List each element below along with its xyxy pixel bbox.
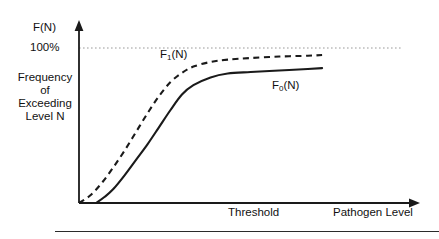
y-axis-description-line-3: Exceeding bbox=[14, 97, 76, 110]
curve-label-f1-base: F bbox=[160, 48, 167, 60]
curve-label-f1-subscript: 1 bbox=[167, 53, 171, 62]
x-axis-threshold-label: Threshold bbox=[228, 206, 279, 219]
curve-label-f0-subscript: 0 bbox=[279, 84, 283, 93]
y-axis-tick-label-100-percent: 100% bbox=[30, 41, 59, 54]
curve-label-f0-base: F bbox=[272, 79, 279, 91]
curve-label-f1: F1(N) bbox=[160, 48, 187, 62]
bottom-divider bbox=[55, 231, 439, 232]
y-axis-description-line-4: Level N bbox=[14, 110, 76, 123]
y-axis-description-line-2: of bbox=[14, 84, 76, 97]
curve-label-f1-suffix: (N) bbox=[171, 48, 187, 60]
curve-label-f0-suffix: (N) bbox=[283, 79, 299, 91]
y-axis-label: F(N) bbox=[33, 21, 56, 34]
curve-label-f0: F0(N) bbox=[272, 79, 299, 93]
y-axis-description: Frequency of Exceeding Level N bbox=[14, 71, 76, 123]
y-axis-description-line-1: Frequency bbox=[14, 71, 76, 84]
x-axis-label: Pathogen Level bbox=[333, 206, 413, 219]
